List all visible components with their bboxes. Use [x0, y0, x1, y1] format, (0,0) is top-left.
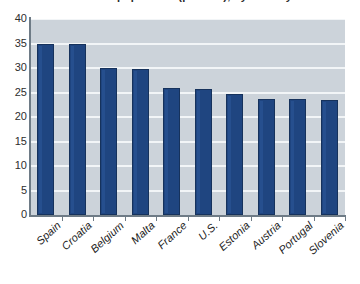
bar-chart: Share of population (percent), by countr… — [0, 0, 360, 284]
x-tick-label-france: France — [155, 219, 189, 251]
x-tickmark-0 — [62, 215, 63, 221]
x-tickmark-9 — [345, 215, 346, 221]
x-tickmark-4 — [188, 215, 189, 221]
x-tickmark-1 — [93, 215, 94, 221]
x-tickmark-5 — [219, 215, 220, 221]
x-tickmark-8 — [314, 215, 315, 221]
x-tick-label-us: U.S. — [196, 219, 220, 243]
x-tick-label-malta: Malta — [129, 219, 157, 246]
x-tickmark-3 — [156, 215, 157, 221]
x-axis-tick-labels: SpainCroatiaBelgiumMaltaFranceU.S.Estoni… — [0, 0, 360, 284]
x-tick-label-estonia: Estonia — [216, 219, 252, 253]
x-tickmark-2 — [125, 215, 126, 221]
x-tick-label-belgium: Belgium — [88, 219, 126, 255]
x-tickmark-6 — [251, 215, 252, 221]
x-tickmark-7 — [282, 215, 283, 221]
